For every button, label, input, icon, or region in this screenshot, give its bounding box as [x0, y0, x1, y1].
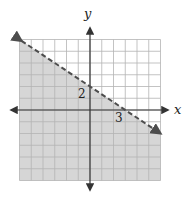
x-axis-label: x [174, 102, 182, 117]
x-intercept-label: 3 [115, 111, 123, 125]
y-axis-label: y [83, 6, 92, 21]
y-intercept-label: 2 [78, 87, 86, 101]
inequality-graph: y x 2 3 [0, 0, 187, 198]
